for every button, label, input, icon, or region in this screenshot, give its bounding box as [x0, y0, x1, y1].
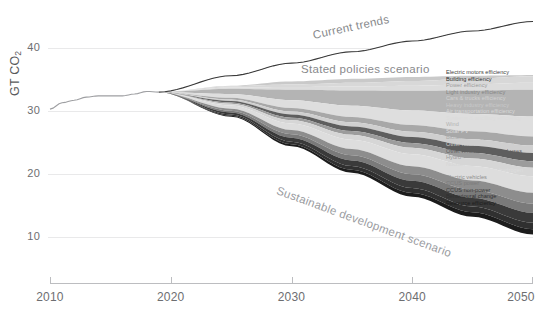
x-tick-2050: 2050	[507, 290, 535, 304]
annotation-stated-policies: Stated policies scenario	[301, 63, 430, 75]
x-tick-2040: 2040	[399, 290, 427, 304]
x-tick-2020: 2020	[157, 290, 185, 304]
x-tick-2030: 2030	[278, 290, 306, 304]
chart-root: GT CO2 10203040 20102020203020402050 Cur…	[0, 0, 537, 327]
x-tickmark-2020	[171, 277, 172, 283]
x-tickmark-2030	[292, 277, 293, 283]
x-tickmark-2050	[532, 277, 533, 283]
x-tickmark-2010	[50, 277, 51, 283]
x-tick-2010: 2010	[36, 290, 64, 304]
legend-item-resource-efficiency[interactable]: Resource efficiency	[446, 200, 537, 207]
historical-emissions-line	[50, 91, 159, 109]
x-axis-line	[50, 283, 533, 284]
x-tickmark-2040	[412, 277, 413, 283]
legend: Electric motors efficiencyBuilding effic…	[446, 69, 537, 206]
